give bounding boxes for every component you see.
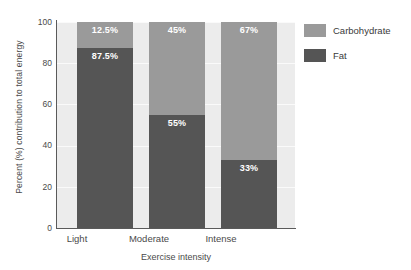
x-axis-title: Exercise intensity [57, 252, 295, 262]
chart-legend: Carbohydrate Fat [304, 24, 391, 74]
y-tick-40: 40 [26, 141, 52, 150]
plot-area: 12.5% 87.5% 45% 55% 67% 33% [57, 22, 295, 228]
x-axis-line [56, 228, 296, 229]
legend-item-carbohydrate[interactable]: Carbohydrate [304, 24, 391, 37]
y-tick-80: 80 [26, 59, 52, 68]
segment-label-moderate-fat: 55% [149, 118, 205, 128]
y-tick-20: 20 [26, 183, 52, 192]
y-axis-tick-labels: 100 80 60 40 20 0 [22, 0, 52, 270]
legend-item-fat[interactable]: Fat [304, 49, 391, 62]
segment-label-light-carbohydrate: 12.5% [77, 25, 133, 35]
chart-figure: Percent (%) contribution to total energy… [0, 0, 411, 270]
segment-intense-carbohydrate[interactable]: 67% [221, 22, 277, 160]
bar-moderate[interactable]: 45% 55% [149, 22, 205, 228]
bar-intense[interactable]: 67% 33% [221, 22, 277, 228]
segment-label-intense-carbohydrate: 67% [221, 25, 277, 35]
legend-label-carbohydrate: Carbohydrate [333, 25, 391, 36]
y-tick-100: 100 [26, 18, 52, 27]
legend-swatch-carbohydrate [304, 24, 326, 37]
segment-label-light-fat: 87.5% [77, 51, 133, 61]
segment-light-fat[interactable]: 87.5% [77, 48, 133, 228]
x-tick-intense: Intense [176, 233, 266, 244]
bar-light[interactable]: 12.5% 87.5% [77, 22, 133, 228]
y-tick-60: 60 [26, 100, 52, 109]
y-tick-0: 0 [26, 224, 52, 233]
segment-intense-fat[interactable]: 33% [221, 160, 277, 228]
segment-label-intense-fat: 33% [221, 163, 277, 173]
segment-moderate-fat[interactable]: 55% [149, 115, 205, 228]
legend-label-fat: Fat [333, 50, 347, 61]
segment-moderate-carbohydrate[interactable]: 45% [149, 22, 205, 115]
segment-light-carbohydrate[interactable]: 12.5% [77, 22, 133, 48]
legend-swatch-fat [304, 49, 326, 62]
segment-label-moderate-carbohydrate: 45% [149, 25, 205, 35]
